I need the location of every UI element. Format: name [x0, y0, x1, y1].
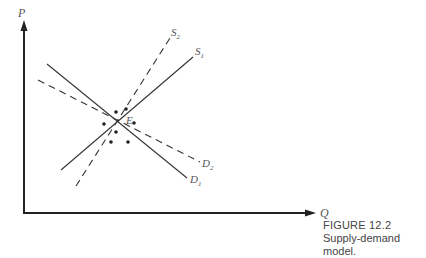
label-d1: D1: [189, 173, 201, 188]
figure-caption: FIGURE 12.2 Supply-demand model.: [323, 219, 426, 258]
data-point: [114, 110, 118, 114]
figure-caption-text: Supply-demand model.: [323, 232, 426, 258]
curve-d1: [47, 64, 187, 178]
x-axis-label: Q: [320, 206, 329, 220]
data-point: [126, 140, 130, 144]
label-s1: S1: [195, 45, 204, 60]
y-axis-label: P: [17, 6, 26, 20]
label-s2: S2: [171, 26, 181, 41]
curve-d2: [38, 80, 200, 162]
y-axis-arrow-icon: [21, 20, 28, 31]
data-point: [102, 122, 106, 126]
data-point: [109, 140, 113, 144]
data-point: [114, 130, 118, 134]
figure-number: FIGURE 12.2: [323, 219, 426, 232]
data-point: [132, 121, 136, 125]
curve-s2: [76, 38, 170, 186]
x-axis-arrow-icon: [305, 210, 316, 217]
label-d2: D2: [201, 157, 214, 172]
equilibrium-label: E: [125, 114, 133, 126]
data-point: [124, 107, 128, 111]
